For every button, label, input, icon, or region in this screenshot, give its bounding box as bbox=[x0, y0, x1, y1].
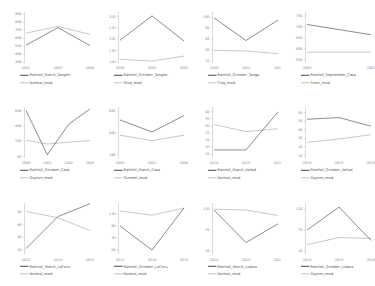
y-tick-label: 240 bbox=[15, 140, 21, 144]
series-line-model bbox=[26, 141, 90, 145]
series-line-model bbox=[307, 237, 371, 244]
series-line-observed bbox=[120, 16, 184, 41]
y-tick-label: 240 bbox=[109, 153, 115, 157]
legend-label: Gayton_mod bbox=[311, 272, 334, 276]
x-tick-label: 2012 bbox=[22, 257, 31, 261]
series-line-observed bbox=[307, 24, 371, 34]
y-tick-label: 35 bbox=[205, 118, 209, 122]
y-tick-label: 60 bbox=[17, 222, 21, 226]
y-tick-label: 80 bbox=[205, 26, 209, 30]
x-tick-label: 2014 bbox=[54, 257, 63, 261]
y-tick-label: 70 bbox=[298, 228, 302, 232]
y-tick-label: 600 bbox=[15, 36, 21, 40]
series-line-observed bbox=[214, 210, 278, 243]
chart-panel: 55060065070075020002001Rainfall_Septembe… bbox=[281, 0, 375, 95]
y-tick-label: 40 bbox=[205, 48, 209, 52]
line-chart: 10152025303540201420152016Rainfall_March… bbox=[188, 95, 282, 190]
y-tick-label: 90 bbox=[111, 224, 115, 228]
legend-label: Rainfall_September_Casa bbox=[311, 73, 356, 77]
legend-label: Rainfall_March_Lisboa bbox=[217, 264, 256, 268]
line-chart: 2070120201420152016Rainfall_March_Lisboa… bbox=[188, 191, 282, 286]
x-tick-label: 2015 bbox=[241, 257, 250, 261]
series-line-model bbox=[214, 209, 278, 215]
line-chart: 240440640200020022004Rainfall_March_Casa… bbox=[94, 95, 188, 190]
x-tick-label: 2015 bbox=[179, 257, 187, 261]
legend-label: Franc_mod bbox=[311, 81, 330, 85]
y-tick-label: 20 bbox=[17, 248, 21, 252]
y-tick-label: 20 bbox=[298, 145, 302, 149]
legend-label: Gumbel_mod bbox=[123, 176, 147, 180]
x-tick-label: 2015 bbox=[335, 162, 344, 166]
x-tick-label: 2002 bbox=[64, 162, 73, 166]
y-tick-label: 60 bbox=[205, 37, 209, 41]
y-tick-label: 40 bbox=[17, 155, 21, 159]
series-line-model bbox=[307, 135, 371, 143]
y-tick-label: 800 bbox=[15, 20, 21, 24]
y-tick-label: 15 bbox=[205, 146, 209, 150]
y-tick-label: 25 bbox=[205, 132, 209, 136]
legend-label: Normal_mod bbox=[217, 272, 240, 276]
series-line-observed bbox=[307, 118, 371, 127]
x-tick-label: 2014 bbox=[209, 162, 218, 166]
y-tick-label: 70 bbox=[111, 236, 115, 240]
y-tick-label: 300 bbox=[15, 60, 21, 64]
legend-label: Rainfall_October_LaCoru bbox=[123, 264, 167, 268]
legend-label: Rainfall_October_Lisboa bbox=[311, 264, 354, 268]
y-tick-label: 400 bbox=[15, 52, 21, 56]
chart-panel: 120170220270320200020012003Rainfall_Octo… bbox=[94, 0, 188, 95]
legend-label: Gayton_mod bbox=[30, 176, 53, 180]
x-tick-label: 2014 bbox=[147, 257, 156, 261]
y-tick-label: 110 bbox=[109, 212, 115, 216]
series-line-model bbox=[214, 125, 278, 132]
y-tick-label: 100 bbox=[203, 15, 209, 19]
x-tick-label: 2000 bbox=[22, 162, 31, 166]
chart-panel: 507090110201220142015Rainfall_October_La… bbox=[94, 191, 188, 286]
y-tick-label: 220 bbox=[109, 37, 115, 41]
legend-label: Rainfall_October_Tanga bbox=[217, 73, 259, 77]
x-tick-label: 2000 bbox=[209, 66, 218, 70]
y-tick-label: 650 bbox=[296, 36, 302, 40]
series-line-observed bbox=[26, 109, 90, 155]
line-chart: 20406080201220142015Rainfall_March_LaCor… bbox=[0, 191, 94, 286]
x-tick-label: 2015 bbox=[335, 257, 344, 261]
chart-panel: 402404406402000200120022004Rainfall_Octo… bbox=[0, 95, 94, 190]
y-tick-label: 700 bbox=[296, 25, 302, 29]
chart-panel: 2070120201420152016Rainfall_March_Lisboa… bbox=[188, 191, 282, 286]
y-tick-label: 500 bbox=[15, 44, 21, 48]
x-tick-label: 2000 bbox=[115, 66, 124, 70]
y-tick-label: 30 bbox=[298, 137, 302, 141]
y-tick-label: 550 bbox=[296, 58, 302, 62]
legend-label: Clay_mod bbox=[217, 81, 235, 85]
series-line-observed bbox=[26, 28, 90, 46]
series-line-model bbox=[26, 211, 90, 230]
x-tick-label: 2015 bbox=[86, 257, 94, 261]
y-tick-label: 750 bbox=[296, 14, 302, 18]
x-tick-label: 2000 bbox=[115, 162, 124, 166]
x-tick-label: 2016 bbox=[367, 162, 375, 166]
series-line-model bbox=[120, 208, 184, 215]
x-tick-label: 2004 bbox=[179, 162, 187, 166]
x-tick-label: 2004 bbox=[86, 162, 94, 166]
legend-label: Gayton_mod bbox=[311, 176, 334, 180]
y-tick-label: 10 bbox=[298, 154, 302, 158]
legend-label: Rainfall_March_Tangier bbox=[30, 73, 71, 77]
y-tick-label: 60 bbox=[298, 111, 302, 115]
x-tick-label: 2002 bbox=[147, 162, 156, 166]
x-tick-label: 2016 bbox=[273, 162, 281, 166]
chart-panel: 20406080201220142015Rainfall_March_LaCor… bbox=[0, 191, 94, 286]
y-tick-label: 80 bbox=[17, 209, 21, 213]
y-tick-label: 120 bbox=[203, 207, 209, 211]
x-tick-label: 2003 bbox=[54, 66, 63, 70]
y-tick-label: 440 bbox=[109, 132, 115, 136]
legend-label: Normal_mod bbox=[29, 272, 52, 276]
y-tick-label: 900 bbox=[15, 12, 21, 16]
y-tick-label: 700 bbox=[15, 28, 21, 32]
legend-label: Rainfall_October_Casa bbox=[30, 169, 70, 173]
series-line-observed bbox=[214, 112, 278, 150]
y-tick-label: 270 bbox=[109, 26, 115, 30]
legend-label: Normal_mod bbox=[123, 272, 146, 276]
legend-label: Normal_mod bbox=[30, 81, 53, 85]
series-line-model bbox=[214, 50, 278, 53]
legend-label: Rainfall_March_Vallad bbox=[217, 169, 256, 173]
legend-label: Rainfall_October_Tangier bbox=[123, 73, 168, 77]
